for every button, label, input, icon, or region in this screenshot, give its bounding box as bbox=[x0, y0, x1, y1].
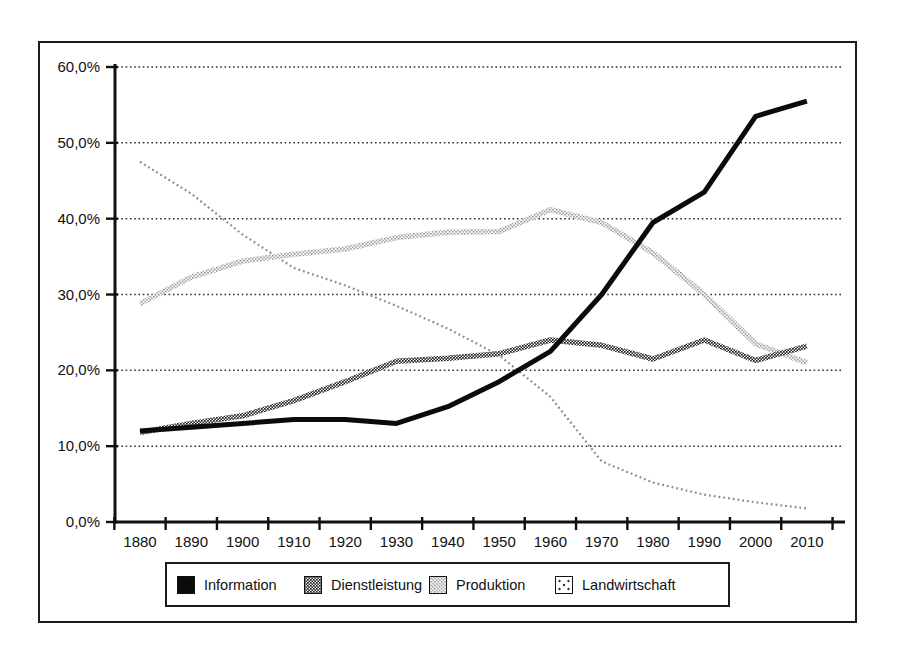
x-axis-label: 1950 bbox=[482, 533, 515, 550]
y-axis-label: 50,0% bbox=[57, 134, 100, 151]
y-axis-label: 40,0% bbox=[57, 210, 100, 227]
x-axis-label: 1880 bbox=[123, 533, 156, 550]
legend-item-dienstleistung: Dienstleistung bbox=[304, 564, 422, 605]
legend-item-produktion: Produktion bbox=[429, 564, 525, 605]
legend-label-landwirtschaft: Landwirtschaft bbox=[582, 577, 676, 593]
series-line-dienstleistung bbox=[140, 340, 807, 433]
legend-label-information: Information bbox=[204, 577, 277, 593]
x-axis-label: 1910 bbox=[277, 533, 310, 550]
legend-box: Information Dienstleistung Produktion La… bbox=[165, 562, 730, 607]
x-axis-label: 1990 bbox=[688, 533, 721, 550]
chart-svg: 0,0%10,0%20,0%30,0%40,0%50,0%60,0%188018… bbox=[0, 0, 897, 657]
x-axis-label: 1900 bbox=[226, 533, 259, 550]
legend-swatch-landwirtschaft-icon bbox=[555, 576, 573, 594]
legend-swatch-information-icon bbox=[177, 576, 195, 594]
legend-swatch-dienstleistung-icon bbox=[304, 576, 322, 594]
y-axis-label: 60,0% bbox=[57, 58, 100, 75]
y-axis-label: 0,0% bbox=[66, 513, 100, 530]
y-axis-label: 10,0% bbox=[57, 437, 100, 454]
legend-label-landwirtschaft: Produktion bbox=[456, 577, 525, 593]
series-line-information bbox=[140, 101, 807, 431]
series-line-landwirtschaft bbox=[140, 162, 807, 509]
x-axis-label: 1960 bbox=[534, 533, 567, 550]
scanned-chart-page: { "colors": { "ink": "#111111", "informa… bbox=[0, 0, 897, 657]
x-axis-label: 1890 bbox=[175, 533, 208, 550]
legend-label-dienstleistung: Dienstleistung bbox=[331, 577, 422, 593]
y-axis-label: 20,0% bbox=[57, 361, 100, 378]
legend-item-landwirtschaft: Landwirtschaft bbox=[555, 564, 676, 605]
y-axis-label: 30,0% bbox=[57, 286, 100, 303]
x-axis-label: 1980 bbox=[636, 533, 669, 550]
x-axis-label: 1970 bbox=[585, 533, 618, 550]
legend-swatch-produktion-icon bbox=[429, 576, 447, 594]
x-axis-label: 2000 bbox=[739, 533, 772, 550]
x-axis-label: 1930 bbox=[380, 533, 413, 550]
x-axis-label: 1920 bbox=[329, 533, 362, 550]
x-axis-label: 1940 bbox=[431, 533, 464, 550]
legend-item-information: Information bbox=[177, 564, 277, 605]
x-axis-label: 2010 bbox=[790, 533, 823, 550]
